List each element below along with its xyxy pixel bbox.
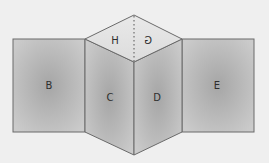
label-e: E xyxy=(214,80,220,91)
label-h: H xyxy=(111,35,119,46)
label-b: B xyxy=(46,80,53,91)
label-g-mirrored: G xyxy=(144,35,152,46)
label-c: C xyxy=(107,92,114,103)
diagram-canvas: B C D E H G xyxy=(0,0,269,163)
folded-net-diagram: B C D E H G xyxy=(0,0,269,163)
label-d: D xyxy=(153,92,161,103)
